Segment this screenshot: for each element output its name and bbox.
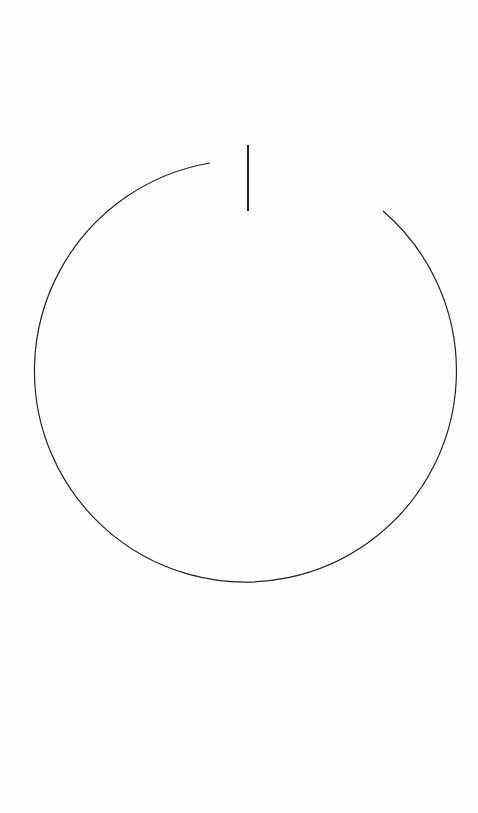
drawing-canvas [0,0,478,813]
power-arc [34,163,456,582]
power-icon [0,0,478,813]
